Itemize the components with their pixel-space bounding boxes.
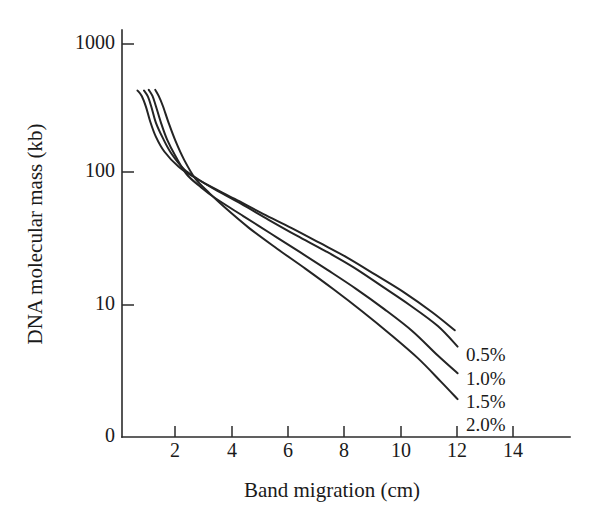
curve-series-1	[144, 91, 458, 347]
x-tick-label-14: 14	[503, 439, 523, 461]
y-tick-label-10: 10	[95, 292, 115, 314]
y-axis-title: DNA molecular mass (kb)	[23, 123, 47, 344]
series-label-2-0-percent: 2.0%	[466, 414, 506, 435]
series-label-1-5-percent: 1.5%	[466, 391, 506, 412]
series-label-0-5-percent: 0.5%	[466, 344, 506, 365]
x-tick-label-4: 4	[227, 439, 237, 461]
chart-figure: 1000 100 10 0 DNA molecular mass (kb) 2 …	[0, 0, 593, 517]
y-tick-label-1000: 1000	[75, 31, 115, 53]
y-axis: 1000 100 10 0 DNA molecular mass (kb)	[23, 30, 134, 446]
series-labels: 0.5% 1.0% 1.5% 2.0%	[466, 344, 506, 435]
y-tick-label-100: 100	[85, 159, 115, 181]
curve-series-3	[155, 90, 457, 399]
y-tick-label-0: 0	[105, 424, 115, 446]
x-tick-label-6: 6	[283, 439, 293, 461]
x-axis-title: Band migration (cm)	[244, 478, 420, 502]
curve-series-2	[149, 90, 458, 373]
x-tick-label-8: 8	[339, 439, 349, 461]
x-tick-label-2: 2	[170, 439, 180, 461]
chart-svg: 1000 100 10 0 DNA molecular mass (kb) 2 …	[0, 0, 593, 517]
data-curves	[138, 90, 458, 399]
series-label-1-0-percent: 1.0%	[466, 368, 506, 389]
x-axis: 2 4 6 8 10 12 14 Band migration (cm)	[122, 426, 570, 502]
curve-series-0	[138, 91, 455, 331]
x-tick-label-10: 10	[391, 439, 411, 461]
x-tick-label-12: 12	[447, 439, 467, 461]
